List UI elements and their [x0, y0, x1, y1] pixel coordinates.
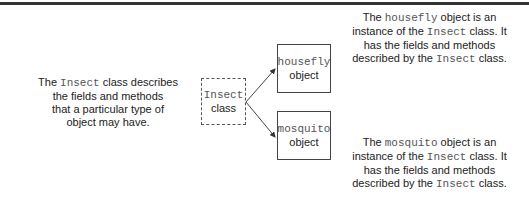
- caption-code: Insect: [427, 151, 467, 163]
- caption-text: The: [363, 136, 385, 148]
- arrow-to-mosquito: [246, 102, 275, 137]
- object-name: mosquito: [278, 123, 331, 136]
- caption-text: object is an: [438, 136, 497, 148]
- caption-text: described by the: [352, 177, 436, 189]
- object-name: housefly: [278, 56, 331, 69]
- caption-code: Insect: [436, 178, 476, 190]
- caption-code: mosquito: [385, 137, 438, 149]
- caption-text: class.: [476, 177, 507, 189]
- caption-text: class.: [476, 52, 507, 64]
- caption-text: class. It: [466, 25, 506, 37]
- caption-text: has the fields and methods: [364, 39, 495, 51]
- housefly-caption: The housefly object is an instance of th…: [332, 11, 527, 66]
- caption-text: has the fields and methods: [364, 164, 495, 176]
- caption-code: Insect: [427, 26, 467, 38]
- caption-code: Insect: [436, 53, 476, 65]
- caption-text: instance of the: [352, 25, 427, 37]
- caption-text: class. It: [466, 150, 506, 162]
- caption-text: object is an: [438, 11, 497, 23]
- object-label: object: [289, 69, 318, 82]
- object-label: object: [289, 136, 318, 149]
- mosquito-object-box: mosquito object: [277, 111, 331, 160]
- mosquito-caption: The mosquito object is an instance of th…: [332, 136, 527, 191]
- caption-code: housefly: [385, 12, 438, 24]
- caption-text: instance of the: [352, 150, 427, 162]
- caption-text: The: [363, 11, 385, 23]
- arrow-to-housefly: [246, 69, 275, 102]
- caption-text: described by the: [352, 52, 436, 64]
- housefly-object-box: housefly object: [277, 44, 331, 93]
